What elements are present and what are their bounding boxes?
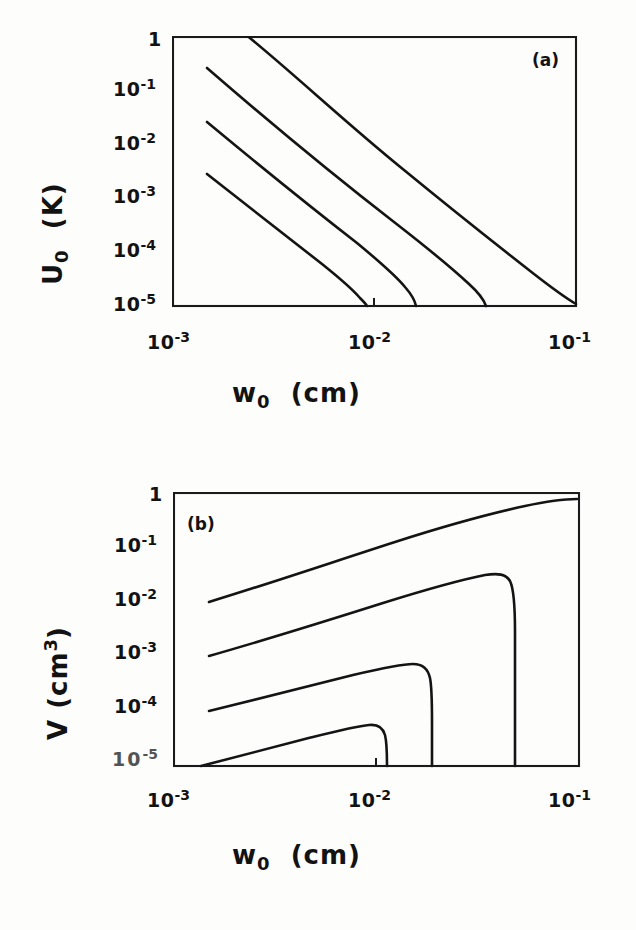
panel-b-xtick-2: 10-1 bbox=[548, 788, 591, 810]
panel-b-xtick-0: 10-3 bbox=[147, 788, 190, 810]
panel-b: 1 10-1 10-2 10-3 10-4 10-5 10-3 10-2 10-… bbox=[0, 450, 636, 930]
panel-a-ytick-1: 10-1 bbox=[113, 77, 156, 99]
panel-a: 1 10-1 10-2 10-3 10-4 10-5 10-3 10-2 10-… bbox=[0, 0, 636, 420]
panel-a-curve-1 bbox=[245, 36, 576, 304]
panel-a-xtick-1: 10-2 bbox=[348, 330, 391, 352]
panel-a-x-axis-title: w0 (cm) bbox=[232, 380, 361, 411]
panel-a-curve-4 bbox=[207, 174, 367, 306]
panel-a-ytick-4: 10-4 bbox=[113, 238, 156, 260]
panel-a-ytick-3: 10-3 bbox=[113, 184, 156, 206]
panel-a-xtick-2: 10-1 bbox=[548, 330, 591, 352]
panel-b-curve-1 bbox=[209, 499, 577, 602]
panel-a-plot-area bbox=[172, 36, 578, 308]
panel-a-xtick-0: 10-3 bbox=[147, 330, 190, 352]
panel-a-ytick-2: 10-2 bbox=[113, 131, 156, 153]
panel-b-ytick-5: 10-5 bbox=[112, 747, 158, 769]
panel-b-ytick-1: 10-1 bbox=[114, 533, 157, 555]
panel-b-curve-3 bbox=[209, 664, 432, 766]
panel-a-curve-2 bbox=[207, 68, 486, 306]
panel-b-plot-area bbox=[173, 492, 581, 768]
panel-b-y-axis-title: V (cm3) bbox=[42, 626, 71, 740]
panel-b-xtick-1: 10-2 bbox=[348, 788, 391, 810]
panel-a-y-axis-title: U0 (K) bbox=[40, 182, 71, 285]
panel-b-ytick-2: 10-2 bbox=[114, 587, 157, 609]
panel-b-curve-4 bbox=[201, 725, 387, 766]
panel-a-frame bbox=[173, 37, 576, 306]
figure-root: 1 10-1 10-2 10-3 10-4 10-5 10-3 10-2 10-… bbox=[0, 0, 636, 930]
panel-a-ytick-5: 10-5 bbox=[113, 292, 156, 314]
panel-b-ytick-0: 1 bbox=[149, 482, 163, 504]
panel-b-ytick-3: 10-3 bbox=[114, 640, 157, 662]
panel-b-curve-2 bbox=[209, 574, 515, 766]
panel-a-ytick-0: 1 bbox=[148, 27, 162, 49]
panel-b-ytick-4: 10-4 bbox=[114, 694, 157, 716]
panel-b-x-axis-title: w0 (cm) bbox=[232, 842, 361, 873]
